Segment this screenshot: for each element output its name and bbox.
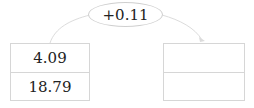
input-box: 4.09 18.79 — [10, 43, 90, 101]
wire-left-to-op — [50, 15, 90, 43]
wire-op-to-right — [162, 15, 202, 40]
operation-node: +0.11 — [88, 2, 163, 27]
operation-label: +0.11 — [103, 6, 149, 24]
output-box — [163, 43, 245, 101]
arrowhead-icon — [199, 37, 205, 42]
input-value-bottom: 18.79 — [11, 73, 89, 101]
input-value-top: 4.09 — [11, 44, 89, 73]
output-value-top — [164, 44, 244, 73]
output-value-bottom — [164, 73, 244, 101]
